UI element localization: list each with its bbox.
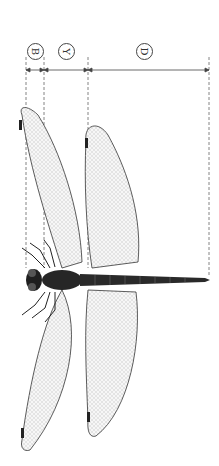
- dimension-label-d: D: [136, 43, 153, 60]
- dimension-line: [26, 68, 209, 72]
- dimension-label-b-text: B: [30, 48, 41, 55]
- figure-canvas: B Y D: [0, 0, 219, 466]
- upper-right-wing: [85, 126, 139, 268]
- dragonfly-body: [26, 269, 210, 291]
- abdomen: [80, 274, 210, 286]
- dimension-label-y: Y: [58, 43, 75, 60]
- dimension-label-y-text: Y: [61, 48, 72, 55]
- lower-right-wing: [86, 290, 138, 436]
- dimension-label-b: B: [27, 43, 44, 60]
- lower-left-wing: [21, 290, 71, 451]
- thorax: [42, 270, 82, 290]
- dimension-label-d-text: D: [139, 47, 150, 55]
- upper-left-wing: [21, 108, 82, 269]
- dragonfly-illustration: [0, 0, 219, 466]
